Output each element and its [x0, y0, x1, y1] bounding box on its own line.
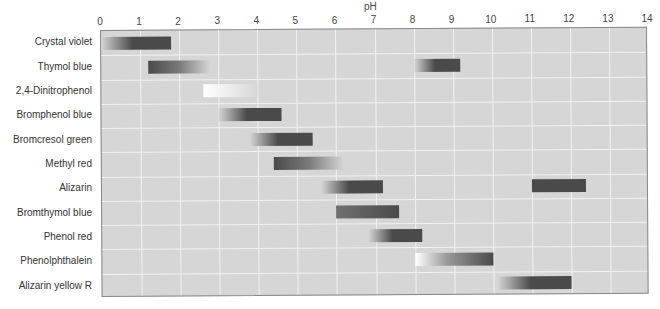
x-tick: 1 — [136, 16, 142, 27]
y-axis-label: Methyl red — [0, 158, 92, 169]
x-tick: 4 — [254, 15, 260, 26]
y-axis-label: Bromthymol blue — [0, 207, 92, 218]
x-tick: 13 — [602, 13, 613, 24]
y-axis-label: Bromphenol blue — [0, 109, 92, 120]
grid-line-vertical — [570, 28, 573, 293]
grid-line-vertical — [375, 29, 378, 294]
range-bar — [336, 205, 399, 218]
grid-line-horizontal — [101, 100, 646, 104]
x-tick: 5 — [293, 15, 299, 26]
range-bar — [274, 157, 344, 170]
grid-line-vertical — [609, 28, 612, 293]
x-tick: 0 — [97, 16, 103, 27]
y-axis-label: Bromcresol green — [0, 134, 92, 145]
range-bar — [148, 60, 211, 73]
grid-line-vertical — [257, 30, 260, 295]
range-bar — [414, 59, 461, 72]
range-bar — [415, 253, 493, 266]
y-axis-label: 2,4-Dinitrophenol — [0, 85, 92, 96]
x-tick: 11 — [525, 13, 535, 24]
y-axis-label: Thymol blue — [0, 61, 92, 72]
range-bar — [203, 84, 258, 97]
x-tick: 6 — [332, 15, 338, 26]
grid-line-vertical — [531, 28, 534, 293]
y-axis-label: Alizarin — [0, 182, 92, 193]
grid-line-vertical — [218, 30, 221, 295]
x-tick: 8 — [410, 14, 416, 25]
grid-line-horizontal — [102, 246, 647, 250]
y-axis-label: Crystal violet — [0, 36, 92, 47]
x-tick: 7 — [371, 14, 377, 25]
plot-area — [100, 27, 649, 297]
x-tick: 2 — [175, 16, 181, 27]
range-bar — [219, 108, 282, 121]
grid-line-horizontal — [101, 52, 646, 56]
range-bar — [321, 181, 384, 194]
grid-line-horizontal — [102, 149, 647, 153]
x-axis-title: pH — [364, 1, 377, 12]
x-tick: 3 — [214, 15, 220, 26]
y-axis-label: Phenolphthalein — [0, 255, 92, 266]
y-axis-label: Phenol red — [0, 231, 92, 242]
grid-line-vertical — [140, 31, 143, 296]
y-axis-label: Alizarin yellow R — [0, 280, 92, 291]
x-tick: 14 — [641, 13, 652, 24]
range-bar — [368, 229, 423, 242]
x-tick: 9 — [449, 14, 455, 25]
range-bar — [532, 179, 587, 192]
range-bar — [101, 36, 171, 49]
x-tick: 10 — [485, 14, 496, 25]
grid-line-horizontal — [102, 198, 647, 202]
range-bar — [250, 132, 313, 145]
range-bar — [497, 276, 571, 289]
x-tick: 12 — [563, 13, 574, 24]
